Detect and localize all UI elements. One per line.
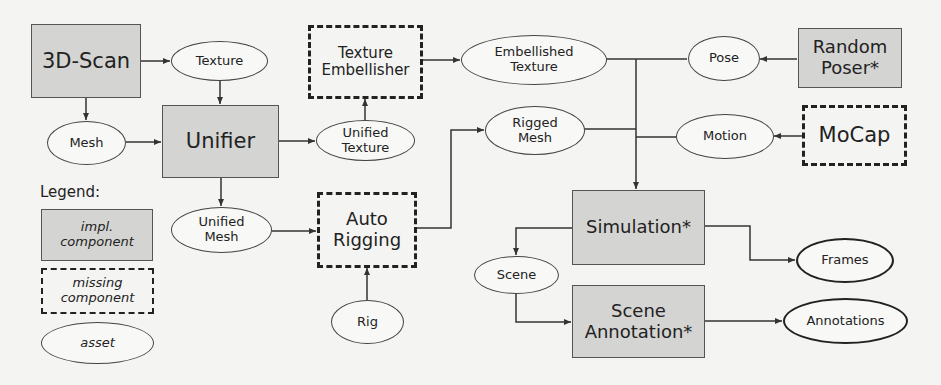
node-label: Scene [497,268,537,283]
node-texture-embellisher: Texture Embellisher [308,25,423,99]
legend-label-line2: component [61,291,135,306]
node-label: Motion [703,129,747,144]
node-embellished-texture: Embellished Texture [461,35,607,85]
node-annotations: Annotations [783,298,908,344]
node-rig: Rig [331,300,404,344]
node-label: Simulation* [586,217,691,238]
edge-simulation-scene [516,228,572,255]
node-label: Mesh [69,136,103,151]
node-label-line2: Mesh [518,131,552,146]
node-label-line2: Poser* [821,58,879,79]
node-scene: Scene [474,256,559,294]
node-label: MoCap [819,123,891,147]
legend-missing-component: missing component [41,268,154,314]
node-simulation: Simulation* [572,190,705,265]
node-label: Frames [821,253,868,268]
node-scene-annotation: Scene Annotation* [572,285,705,358]
node-label-line2: Texture [342,141,390,156]
node-label-line2: Embellisher [321,62,409,79]
node-label-line1: Scene [611,301,666,322]
legend-label-line1: missing [73,276,123,291]
node-label-line1: Unified [343,126,389,141]
legend-label-line1: impl. [81,220,113,235]
node-3d-scan: 3D-Scan [31,24,141,98]
node-label-line1: Embellished [494,45,573,60]
node-unified-mesh: Unified Mesh [171,207,272,253]
node-label-line1: Rigged [512,116,557,131]
edge-scene-sceneannotation [516,294,571,322]
legend-asset: asset [41,322,154,364]
node-pose: Pose [688,36,760,81]
node-label-line1: Random [813,37,888,58]
node-label: Rig [357,315,378,330]
edge-autorigging-riggedmesh [416,130,484,228]
node-label-line2: Rigging [333,230,401,251]
legend-impl-component: impl. component [41,209,153,261]
node-unifier: Unifier [162,105,279,178]
node-label-line1: Unified [199,215,245,230]
node-auto-rigging: Auto Rigging [317,192,417,268]
node-label-line2: Annotation* [585,322,693,343]
node-motion: Motion [676,114,774,159]
node-label-line1: Auto [346,209,388,230]
node-rigged-mesh: Rigged Mesh [485,106,585,155]
node-frames: Frames [796,238,894,283]
legend-label: asset [80,336,115,351]
node-label: Annotations [806,314,884,329]
node-label-line1: Texture [338,45,393,62]
node-label: Texture [196,54,244,69]
node-texture: Texture [171,41,268,81]
node-mesh: Mesh [47,121,126,165]
node-label: 3D-Scan [42,49,130,73]
node-mocap: MoCap [802,105,907,166]
legend-label-line2: component [60,235,134,250]
node-unified-texture: Unified Texture [316,120,415,161]
node-label: Pose [709,51,739,66]
legend-title: Legend: [40,183,100,201]
node-random-poser: Random Poser* [798,28,902,88]
node-label: Unifier [186,129,255,153]
node-label-line2: Mesh [204,230,238,245]
node-label-line2: Texture [510,60,558,75]
edge-simulation-frames [705,226,795,260]
